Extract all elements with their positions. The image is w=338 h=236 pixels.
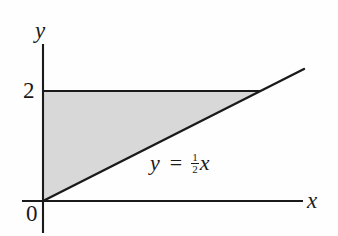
figure-container: y x 2 0 y = 1 2 x [0,0,338,236]
y-axis-label: y [35,19,45,42]
fraction-denominator: 2 [191,163,199,175]
plot-canvas [0,0,338,236]
equation-fraction: 1 2 [191,152,199,175]
y-tick-label-2: 2 [23,79,35,102]
equation-operator: = [170,152,182,174]
equation-variable: x [200,152,210,174]
equation-lhs: y [150,152,160,174]
equation-annotation: y = 1 2 x [150,151,209,174]
origin-label: 0 [26,202,38,225]
fraction-numerator: 1 [191,152,199,163]
x-axis-label: x [307,189,317,212]
